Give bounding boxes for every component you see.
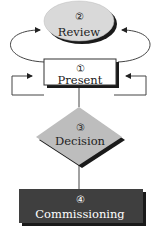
review-number: ② — [75, 11, 84, 22]
commissioning-number: ④ — [76, 194, 85, 205]
decision-number: ③ — [76, 122, 85, 133]
node-decision: ③ Decision — [36, 107, 125, 168]
node-commissioning: ④ Commissioning — [19, 189, 146, 226]
arrow-right-to-review — [118, 30, 150, 62]
process-diagram: ② Review ① Present ③ Decision ④ Commissi… — [0, 0, 158, 235]
node-present: ① Present — [44, 59, 119, 88]
decision-label: Decision — [55, 134, 106, 148]
loop-left-present — [12, 76, 44, 95]
commissioning-label: Commissioning — [35, 207, 125, 221]
arrow-left-to-review — [10, 30, 44, 62]
node-review: ② Review — [44, 1, 117, 44]
review-label: Review — [58, 25, 100, 39]
present-label: Present — [58, 73, 103, 87]
